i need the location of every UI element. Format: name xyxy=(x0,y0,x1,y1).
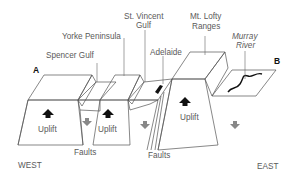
label-yorke-peninsula: Yorke Peninsula xyxy=(62,32,121,41)
label-uplift-west: Uplift xyxy=(38,125,57,134)
endpoint-marker-b: B xyxy=(274,56,280,66)
yorke-uplift-block xyxy=(93,75,144,145)
label-murray-line2: River xyxy=(236,41,255,50)
subsidence-arrow-icon xyxy=(82,118,92,126)
uplift-arrow-icon xyxy=(179,97,191,106)
label-west: WEST xyxy=(18,161,42,170)
label-east: EAST xyxy=(257,162,278,171)
label-faults-east: Faults xyxy=(148,151,170,160)
murray-basin-plain xyxy=(212,70,276,96)
subsidence-arrow-icon xyxy=(140,121,150,129)
geology-block-diagram: A B Spencer Gulf Yorke Peninsula St. Vin… xyxy=(0,0,295,186)
label-mt-lofty-line2: Ranges xyxy=(192,22,220,31)
label-faults-west: Faults xyxy=(74,148,96,157)
label-adelaide: Adelaide xyxy=(150,48,182,57)
label-spencer-gulf: Spencer Gulf xyxy=(46,51,95,60)
label-uplift-lofty: Uplift xyxy=(180,113,199,122)
st-vincent-gulf-trough xyxy=(128,79,172,110)
endpoint-marker-a: A xyxy=(33,65,39,75)
uplift-arrow-icon xyxy=(42,109,54,118)
label-mt-lofty-line1: Mt. Lofty xyxy=(190,12,222,21)
label-murray-line1: Murray xyxy=(232,32,258,41)
subsidence-arrow-icon xyxy=(230,121,240,129)
label-st-vincent-line2: Gulf xyxy=(136,21,152,30)
adelaide-city-marker xyxy=(155,85,163,94)
label-st-vincent-line1: St. Vincent xyxy=(124,12,164,21)
label-uplift-yorke: Uplift xyxy=(98,125,117,134)
mt-lofty-uplift-block xyxy=(158,52,228,150)
uplift-arrow-icon xyxy=(102,109,114,118)
